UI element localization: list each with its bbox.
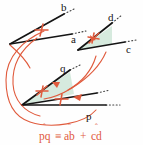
arrowhead-into-pq-lower — [73, 94, 82, 101]
label-q: q — [60, 62, 66, 74]
dotted-ext-q — [70, 64, 82, 70]
formula-group: ˆ ˆ ˆ pq ≡ ab + cd — [39, 123, 102, 143]
curve-ab-to-pq-outer — [6, 31, 96, 125]
formula-term-pq: pq — [39, 130, 51, 143]
label-d: d — [108, 11, 114, 23]
dotted-ext-middle — [97, 90, 110, 93]
label-a: a — [71, 33, 76, 45]
dotted-ext-c — [125, 40, 136, 42]
label-b: b — [61, 1, 67, 13]
formula-term-cd: cd — [91, 130, 102, 142]
formula-relation: ≡ — [55, 130, 62, 142]
dotted-ext-d — [112, 15, 122, 23]
ray-label-group: b a d c q p — [60, 1, 131, 122]
geometry-figure: b a d c q p ˆ ˆ ˆ pq ≡ ab + cd — [0, 0, 143, 145]
ray-dotted-extensions — [64, 8, 136, 105]
label-p: p — [86, 110, 92, 122]
formula-operator: + — [80, 130, 87, 142]
formula-term-ab: ab — [64, 130, 75, 142]
label-c: c — [126, 43, 131, 55]
diagram-canvas: b a d c q p ˆ ˆ ˆ pq ≡ ab + cd — [0, 0, 143, 145]
